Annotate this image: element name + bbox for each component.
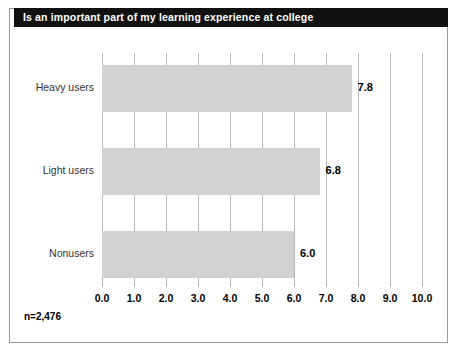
plot-area — [102, 53, 422, 287]
chart-title: Is an important part of my learning expe… — [23, 11, 313, 23]
bar — [102, 231, 294, 278]
x-axis-tick-label: 10.0 — [402, 292, 442, 304]
bar — [102, 65, 352, 112]
bar-value-label: 7.8 — [358, 81, 373, 93]
sample-size-note: n=2,476 — [24, 311, 61, 322]
bar-value-label: 6.8 — [326, 164, 341, 176]
category-label: Heavy users — [20, 81, 94, 93]
category-label: Nonusers — [20, 247, 94, 259]
bar-value-label: 6.0 — [300, 247, 315, 259]
gridline — [390, 53, 391, 287]
category-label: Light users — [20, 164, 94, 176]
bar — [102, 148, 320, 195]
chart-title-banner: Is an important part of my learning expe… — [14, 8, 448, 27]
gridline — [422, 53, 423, 287]
chart-figure: Is an important part of my learning expe… — [0, 0, 459, 356]
